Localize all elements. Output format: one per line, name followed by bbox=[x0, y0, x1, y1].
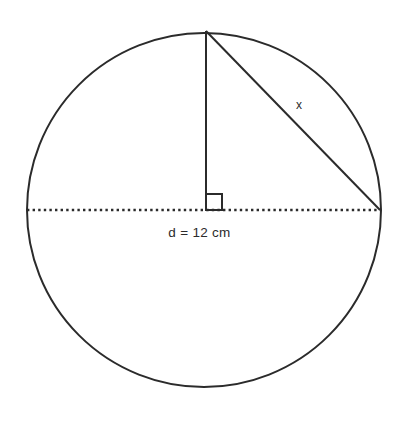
right-angle-marker bbox=[206, 194, 222, 210]
hypotenuse-label-x: x bbox=[296, 99, 302, 111]
geometry-figure: x d = 12 cm bbox=[0, 0, 401, 422]
diameter-label: d = 12 cm bbox=[0, 226, 400, 240]
circle-outline bbox=[27, 33, 381, 387]
geometry-canvas bbox=[0, 0, 401, 422]
